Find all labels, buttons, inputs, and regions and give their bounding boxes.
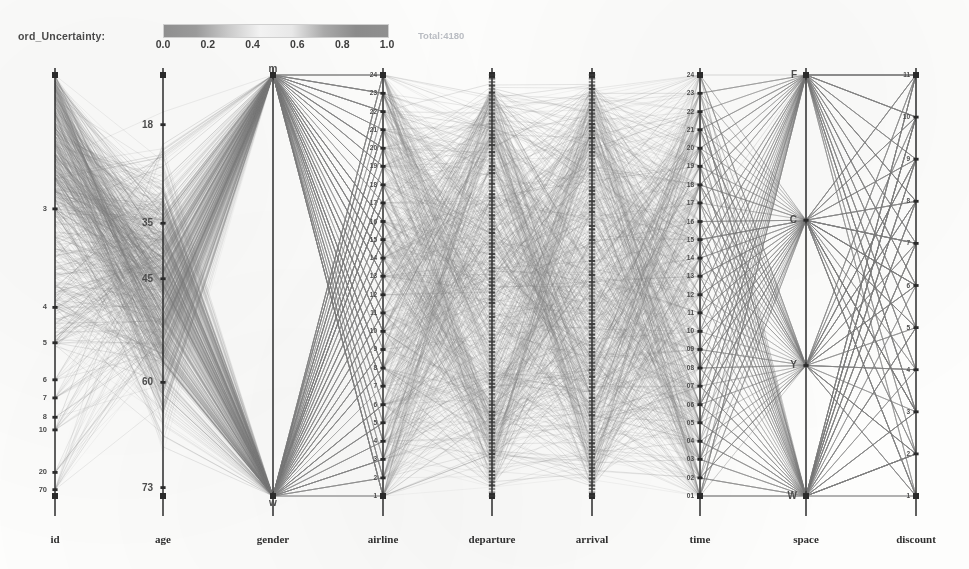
axis-tick-time xyxy=(697,440,702,443)
axis-title-age[interactable]: age xyxy=(155,533,171,545)
axis-title-time[interactable]: time xyxy=(690,533,711,545)
axis-tick-arrival xyxy=(589,141,595,143)
axis-tick-id xyxy=(52,397,57,400)
axis-handle-age-top[interactable] xyxy=(160,72,166,78)
tick-label-time-04: 04 xyxy=(687,438,694,445)
axis-handle-id-top[interactable] xyxy=(52,72,58,78)
axis-title-id[interactable]: id xyxy=(50,533,59,545)
axis-tick-arrival xyxy=(589,158,595,160)
axis-tick-discount xyxy=(913,74,918,77)
tick-label-discount-8: 8 xyxy=(906,198,910,205)
axis-tick-arrival xyxy=(589,312,595,314)
axis-tick-arrival xyxy=(589,218,595,220)
tick-label-id-3: 3 xyxy=(43,205,47,213)
axis-tick-departure xyxy=(489,218,495,220)
axis-tick-departure xyxy=(489,379,495,381)
axis-tick-arrival xyxy=(589,323,595,325)
axis-tick-arrival xyxy=(589,355,595,357)
tick-label-id-10: 10 xyxy=(39,426,47,434)
plot-area: 345678102070id1835456073agemwgender24232… xyxy=(0,0,969,569)
axis-tick-arrival xyxy=(589,137,595,139)
axis-tick-departure xyxy=(489,407,495,409)
axis-tick-arrival xyxy=(589,407,595,409)
axis-tick-arrival xyxy=(589,309,595,311)
axis-tick-departure xyxy=(489,207,495,209)
axis-title-space[interactable]: space xyxy=(793,533,819,545)
tick-label-space-C: C xyxy=(790,215,797,225)
axis-tick-arrival xyxy=(589,397,595,399)
axis-tick-departure xyxy=(489,404,495,406)
axis-tick-arrival xyxy=(589,491,595,493)
axis-tick-arrival xyxy=(589,249,595,251)
tick-label-time-16: 16 xyxy=(687,218,694,225)
axis-tick-arrival xyxy=(589,274,595,276)
axis-tick-id xyxy=(52,306,57,309)
axis-tick-departure xyxy=(489,495,495,497)
axis-tick-departure xyxy=(489,109,495,111)
axis-handle-id-bottom[interactable] xyxy=(52,493,58,499)
axis-tick-departure xyxy=(489,155,495,157)
axis-tick-departure xyxy=(489,144,495,146)
axis-tick-gender xyxy=(270,74,275,77)
axis-title-departure[interactable]: departure xyxy=(469,533,516,545)
axis-tick-discount xyxy=(913,495,918,498)
axis-tick-arrival xyxy=(589,260,595,262)
axis-tick-departure xyxy=(489,91,495,93)
axis-tick-departure xyxy=(489,362,495,364)
axis-title-arrival[interactable]: arrival xyxy=(576,533,608,545)
axis-handle-age-bottom[interactable] xyxy=(160,493,166,499)
parallel-coordinates-app: ord_Uncertainty: 0.00.20.40.60.81.0 Tota… xyxy=(0,0,969,569)
axis-tick-time xyxy=(697,74,702,77)
axis-title-airline[interactable]: airline xyxy=(368,533,399,545)
axis-tick-departure xyxy=(489,112,495,114)
axis-tick-departure xyxy=(489,341,495,343)
axis-tick-departure xyxy=(489,137,495,139)
axis-tick-arrival xyxy=(589,105,595,107)
axis-tick-discount xyxy=(913,200,918,203)
axis-tick-departure xyxy=(489,418,495,420)
tick-label-id-7: 7 xyxy=(43,394,47,402)
axis-tick-departure xyxy=(489,288,495,290)
axis-tick-arrival xyxy=(589,190,595,192)
axis-tick-arrival xyxy=(589,277,595,279)
axis-title-discount[interactable]: discount xyxy=(896,533,936,545)
axis-tick-departure xyxy=(489,260,495,262)
axis-tick-arrival xyxy=(589,393,595,395)
axis-tick-arrival xyxy=(589,362,595,364)
axis-tick-departure xyxy=(489,481,495,483)
axis-tick-departure xyxy=(489,270,495,272)
axis-tick-discount xyxy=(913,326,918,329)
axis-tick-time xyxy=(697,385,702,388)
tick-label-airline-9: 9 xyxy=(373,346,377,353)
tick-label-airline-22: 22 xyxy=(370,108,377,115)
axis-tick-arrival xyxy=(589,481,595,483)
axis-tick-time xyxy=(697,110,702,113)
tick-label-airline-13: 13 xyxy=(370,273,377,280)
axis-tick-departure xyxy=(489,74,495,76)
axis-tick-airline xyxy=(380,128,385,131)
tick-label-airline-7: 7 xyxy=(373,383,377,390)
axis-title-gender[interactable]: gender xyxy=(257,533,289,545)
tick-label-airline-12: 12 xyxy=(370,292,377,299)
axis-tick-departure xyxy=(489,463,495,465)
tick-label-airline-10: 10 xyxy=(370,328,377,335)
tick-label-airline-1: 1 xyxy=(373,493,377,500)
axis-tick-departure xyxy=(489,291,495,293)
tick-label-time-12: 12 xyxy=(687,292,694,299)
tick-label-time-06: 06 xyxy=(687,401,694,408)
axis-tick-space xyxy=(803,495,808,498)
axis-tick-airline xyxy=(380,476,385,479)
axis-tick-arrival xyxy=(589,411,595,413)
axis-tick-time xyxy=(697,495,702,498)
tick-label-space-Y: Y xyxy=(790,360,797,370)
axis-tick-departure xyxy=(489,372,495,374)
tick-label-age-73: 73 xyxy=(142,483,153,493)
axis-tick-arrival xyxy=(589,369,595,371)
axis-tick-arrival xyxy=(589,316,595,318)
axis-tick-arrival xyxy=(589,474,595,476)
tick-label-airline-6: 6 xyxy=(373,401,377,408)
tick-label-id-20: 20 xyxy=(39,469,47,477)
axis-tick-arrival xyxy=(589,77,595,79)
axis-tick-time xyxy=(697,403,702,406)
tick-label-discount-6: 6 xyxy=(906,282,910,289)
